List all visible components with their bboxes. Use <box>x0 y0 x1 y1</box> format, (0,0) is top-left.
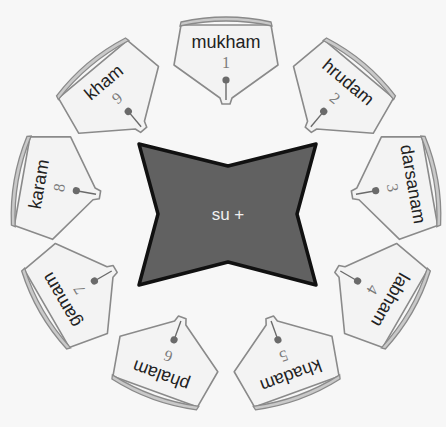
pin-dot-icon <box>222 76 229 83</box>
radial-word-diagram: su + mukham 1 hrudam 2 darsanam 3 l <box>0 0 446 427</box>
word-card-6: phalam 6 <box>104 300 231 417</box>
word-card-3: darsanam 3 <box>343 129 446 247</box>
center-star: su + <box>139 144 316 285</box>
center-label: su + <box>212 205 245 224</box>
card-number: 1 <box>222 54 230 71</box>
word-card-5: khadam 5 <box>221 300 348 417</box>
word-card-1: mukham 1 <box>174 17 278 104</box>
word-card-8: karam 8 <box>5 129 109 247</box>
card-word: mukham <box>191 32 260 52</box>
